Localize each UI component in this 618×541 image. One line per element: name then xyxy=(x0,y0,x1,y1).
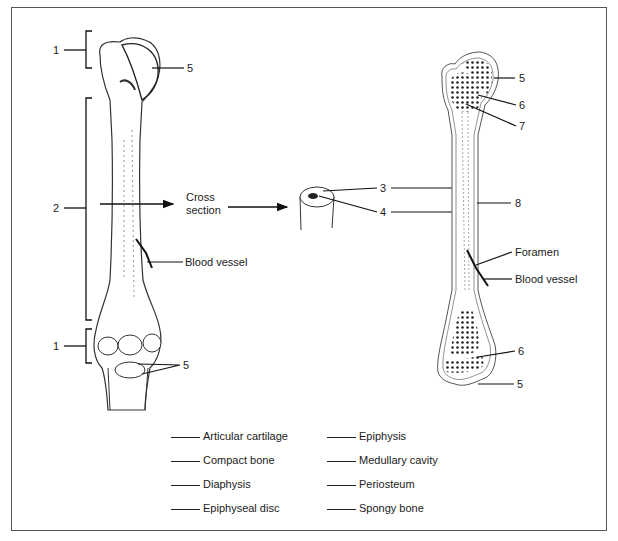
label-2: 2 xyxy=(53,202,59,214)
key-label: Compact bone xyxy=(203,454,275,466)
key-item-articular-cartilage: Articular cartilage xyxy=(171,430,288,442)
medullary-cavity-section xyxy=(308,193,318,199)
label-1-bottom: 1 xyxy=(53,340,59,352)
answer-blank[interactable] xyxy=(327,461,356,462)
label-foramen: Foramen xyxy=(515,246,559,258)
answer-blank[interactable] xyxy=(327,509,356,510)
key-label: Epiphysis xyxy=(359,430,406,442)
condyle-middle xyxy=(118,335,142,355)
label-5-top-left: 5 xyxy=(187,62,193,74)
label-6-bottom: 6 xyxy=(518,345,524,357)
answer-blank[interactable] xyxy=(171,437,200,438)
label-5-bottom-left: 5 xyxy=(183,359,189,371)
key-label: Periosteum xyxy=(359,478,415,490)
label-4: 4 xyxy=(380,206,386,218)
key-item-periosteum: Periosteum xyxy=(327,478,415,490)
key-item-epiphysis: Epiphysis xyxy=(327,430,406,442)
bracket-proximal-epiphysis xyxy=(86,31,92,68)
label-3: 3 xyxy=(380,182,386,194)
key-label: Epiphyseal disc xyxy=(203,502,279,514)
answer-blank[interactable] xyxy=(171,461,200,462)
label-7: 7 xyxy=(519,120,525,132)
leader-foramen xyxy=(476,252,512,265)
label-5-top-right: 5 xyxy=(519,72,525,84)
cross-section-label-line1: Cross xyxy=(186,191,215,203)
bracket-distal-epiphysis xyxy=(86,329,92,363)
label-6-top: 6 xyxy=(519,99,525,111)
answer-blank[interactable] xyxy=(171,509,200,510)
label-1-top: 1 xyxy=(53,44,59,56)
cross-section-label-line2: section xyxy=(186,204,221,216)
condyle-left xyxy=(98,337,118,355)
key-item-medullary-cavity: Medullary cavity xyxy=(327,454,438,466)
answer-blank[interactable] xyxy=(327,437,356,438)
key-item-spongy-bone: Spongy bone xyxy=(327,502,424,514)
answer-blank[interactable] xyxy=(171,485,200,486)
label-blood-vessel-right: Blood vessel xyxy=(515,273,577,285)
key-item-diaphysis: Diaphysis xyxy=(171,478,251,490)
right-bone-section-drawing xyxy=(438,52,499,385)
key-label: Medullary cavity xyxy=(359,454,438,466)
key-item-epiphyseal-disc: Epiphyseal disc xyxy=(171,502,279,514)
bracket-diaphysis xyxy=(86,98,92,320)
answer-blank[interactable] xyxy=(327,485,356,486)
label-5-bottom-right: 5 xyxy=(517,378,523,390)
key-item-compact-bone: Compact bone xyxy=(171,454,275,466)
left-brackets xyxy=(64,31,92,363)
left-humerus-drawing xyxy=(94,38,161,410)
bone-diagram: 1 2 1 5 5 Cross section Blood vessel 3 4… xyxy=(0,0,618,541)
condyle-right xyxy=(143,334,161,352)
key-label: Articular cartilage xyxy=(203,430,288,442)
key-label: Diaphysis xyxy=(203,478,251,490)
label-8: 8 xyxy=(515,197,521,209)
leader-3-left xyxy=(323,188,377,191)
key-label: Spongy bone xyxy=(359,502,424,514)
cross-section-drawing xyxy=(300,187,334,230)
label-blood-vessel-left: Blood vessel xyxy=(185,256,247,268)
